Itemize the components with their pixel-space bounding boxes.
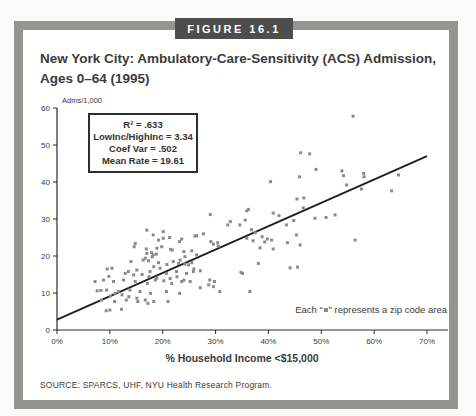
data-point (182, 279, 185, 282)
data-point (263, 240, 266, 243)
data-point (182, 250, 185, 253)
y-tick-label: 60 (41, 104, 50, 113)
data-point (147, 259, 150, 262)
data-point (363, 175, 366, 178)
data-point (183, 255, 186, 258)
data-point (152, 265, 155, 268)
stats-box: R² = .633 LowInc/HighInc = 3.34 Coef Var… (88, 113, 198, 173)
data-point (295, 198, 298, 201)
data-point (110, 267, 113, 270)
data-point (217, 245, 220, 248)
data-point (247, 208, 250, 211)
data-point (212, 243, 215, 246)
data-point (171, 249, 174, 252)
x-tick-label: 0% (51, 337, 63, 346)
y-tick-label: 0 (46, 326, 51, 335)
data-point (102, 279, 105, 282)
data-point (292, 219, 295, 222)
data-point (250, 228, 253, 231)
data-point (202, 232, 205, 235)
data-point (354, 239, 357, 242)
data-point (241, 272, 244, 275)
data-point (130, 260, 133, 263)
data-point (178, 292, 181, 295)
data-point (272, 212, 275, 215)
data-point (106, 267, 109, 270)
data-point (138, 290, 141, 293)
scatter-plot: 0%10%20%30%40%50%60%70%0102030405060 (23, 30, 449, 400)
data-point (208, 279, 211, 282)
data-point (144, 299, 147, 302)
data-point (299, 151, 302, 154)
data-point (120, 308, 123, 311)
data-point (135, 297, 138, 300)
y-tick-label: 50 (41, 141, 50, 150)
data-point (209, 213, 212, 216)
data-point (99, 289, 102, 292)
data-point (295, 233, 298, 236)
data-point (155, 253, 158, 256)
data-point (390, 189, 393, 192)
x-tick-label: 10% (102, 337, 118, 346)
data-point (152, 233, 155, 236)
data-point (160, 245, 163, 248)
data-point (397, 173, 400, 176)
data-point (334, 213, 337, 216)
data-point (146, 282, 149, 285)
data-point (185, 272, 188, 275)
data-point (269, 180, 272, 183)
data-point (218, 290, 221, 293)
data-point (192, 270, 195, 273)
data-point (213, 280, 216, 283)
data-point (266, 237, 269, 240)
y-tick-label: 10 (41, 289, 50, 298)
data-point (183, 263, 186, 266)
data-point (229, 220, 232, 223)
data-point (254, 231, 257, 234)
data-point (313, 217, 316, 220)
y-tick-label: 40 (41, 178, 50, 187)
data-point (127, 295, 130, 298)
data-point (136, 300, 139, 303)
data-point (144, 257, 147, 260)
x-tick-label: 30% (208, 337, 224, 346)
data-point (207, 283, 210, 286)
x-tick-label: 70% (419, 337, 435, 346)
data-point (145, 252, 148, 255)
data-point (109, 294, 112, 297)
data-point (167, 300, 170, 303)
point-legend: Each “” represents a zip code area (295, 304, 447, 315)
data-point (135, 269, 138, 272)
data-point (199, 286, 202, 289)
data-point (124, 272, 127, 275)
data-point (100, 299, 103, 302)
data-point (117, 290, 120, 293)
data-point (105, 289, 108, 292)
data-point (195, 253, 198, 256)
data-point (302, 196, 305, 199)
data-point (107, 275, 110, 278)
x-axis-title: % Household Income <$15,000 (57, 352, 427, 364)
point-legend-prefix: Each “ (295, 304, 322, 315)
data-point (155, 247, 158, 250)
data-point (146, 302, 149, 305)
data-point (199, 269, 202, 272)
stat-lowinc-highinc: LowInc/HighInc = 3.34 (90, 131, 196, 143)
data-point (149, 292, 152, 295)
data-point (114, 292, 117, 295)
data-point (134, 242, 137, 245)
data-point (145, 247, 148, 250)
data-point (252, 239, 255, 242)
data-point (165, 290, 168, 293)
data-point (113, 300, 116, 303)
source-note: SOURCE: SPARCS, UHF, NYU Health Research… (40, 380, 272, 390)
data-point (190, 249, 193, 252)
y-tick-label: 20 (41, 252, 50, 261)
data-point (157, 239, 160, 242)
trend-line (57, 156, 427, 320)
data-point (257, 262, 260, 265)
data-point (195, 234, 198, 237)
data-point (299, 243, 302, 246)
data-point (179, 259, 182, 262)
data-point (162, 230, 165, 233)
